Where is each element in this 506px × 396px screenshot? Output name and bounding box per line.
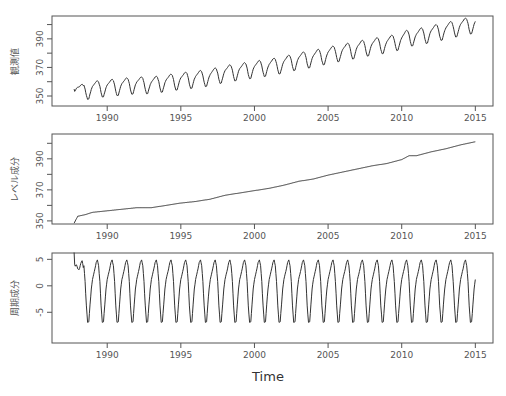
y-tick-label: 350: [35, 212, 45, 229]
y-axis-title: 観測値: [9, 48, 20, 75]
x-axis: 199019952000200520102015: [96, 343, 487, 360]
y-tick-label: 390: [35, 30, 45, 47]
y-tick-label: 370: [35, 181, 45, 198]
y-tick-label: 350: [35, 87, 45, 104]
y-tick-label: 390: [35, 150, 45, 167]
panel-observed: 199019952000200520102015 350370390 観測値: [9, 16, 493, 123]
x-tick-label: 1990: [96, 113, 119, 123]
x-tick-label: 2000: [243, 231, 266, 241]
y-axis-title: レベル成分: [9, 157, 20, 202]
observed-line: [74, 18, 475, 99]
x-tick-label: 2015: [464, 113, 487, 123]
y-tick-label: 5: [35, 256, 45, 262]
panel-seasonal: 199019952000200520102015 50-5 周期成分: [9, 253, 493, 361]
x-tick-label: 2015: [464, 231, 487, 241]
decomposition-figure: 199019952000200520102015 350370390 観測値 1…: [0, 0, 506, 396]
plot-frame: [52, 16, 493, 106]
plot-frame: [52, 134, 493, 224]
x-tick-label: 1990: [96, 350, 119, 360]
y-tick-label: 370: [35, 59, 45, 76]
x-tick-label: 1995: [169, 350, 192, 360]
x-axis-title: Time: [251, 369, 284, 384]
x-tick-label: 2000: [243, 350, 266, 360]
x-tick-label: 2010: [390, 350, 413, 360]
x-tick-label: 2015: [464, 350, 487, 360]
x-tick-label: 1995: [169, 231, 192, 241]
x-tick-label: 1995: [169, 113, 192, 123]
y-axis: 350370390: [35, 143, 52, 229]
y-axis-title: 周期成分: [9, 280, 20, 316]
x-tick-label: 2005: [317, 231, 340, 241]
seasonal-line: [74, 253, 475, 323]
x-tick-label: 2010: [390, 231, 413, 241]
x-tick-label: 2005: [317, 350, 340, 360]
y-axis: 350370390: [35, 25, 52, 105]
y-tick-label: -5: [35, 308, 45, 317]
x-tick-label: 2005: [317, 113, 340, 123]
y-axis: 50-5: [35, 256, 52, 316]
x-axis: 199019952000200520102015: [96, 106, 487, 123]
x-tick-label: 2000: [243, 113, 266, 123]
y-tick-label: 0: [35, 283, 45, 289]
x-tick-label: 1990: [96, 231, 119, 241]
level-line: [74, 142, 475, 223]
panel-level: 199019952000200520102015 350370390 レベル成分: [9, 134, 493, 241]
x-tick-label: 2010: [390, 113, 413, 123]
x-axis: 199019952000200520102015: [96, 224, 487, 241]
